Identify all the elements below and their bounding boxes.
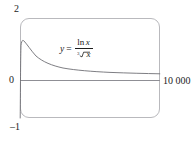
denominator-variable: x <box>87 50 91 59</box>
numerator-variable: x <box>86 37 90 47</box>
y-max-label: 2 <box>14 4 19 14</box>
equation-annotation: y = lnx 3 x <box>60 38 93 62</box>
equation-fraction: lnx 3 x <box>75 38 93 62</box>
y-zero-label: 0 <box>9 75 14 85</box>
graph-figure: 2 0 –1 10 000 y = lnx 3 x <box>0 0 194 142</box>
fraction-denominator: 3 x <box>75 49 93 62</box>
x-max-label: 10 000 <box>163 76 191 86</box>
y-min-label: –1 <box>10 122 20 132</box>
equals-sign: = <box>65 45 74 55</box>
plot-canvas <box>0 0 194 142</box>
natural-log-operator: ln <box>77 37 84 47</box>
svg-text:3: 3 <box>77 51 80 56</box>
fraction-numerator: lnx <box>75 38 92 48</box>
